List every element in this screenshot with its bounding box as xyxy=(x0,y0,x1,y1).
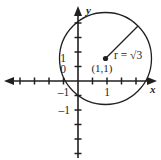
x-tick-label-one: 1 xyxy=(104,86,110,98)
y-axis-label: y xyxy=(84,4,91,16)
y-axis-up-arrow-icon xyxy=(74,6,82,16)
x-tick-label-negative-one: –1 xyxy=(57,86,70,98)
y-tick-label-one: 1 xyxy=(60,52,66,64)
origin-tick-label: 0 xyxy=(60,63,66,75)
center-point-dot xyxy=(103,56,108,61)
x-axis-left-arrow-icon xyxy=(4,77,14,85)
math-figure-circle: y x 0 1 –1 –1 1 (1,1) r = √3 xyxy=(0,0,161,160)
radius-label: r = √3 xyxy=(114,49,142,61)
y-tick-label-negative-one: –1 xyxy=(58,104,71,116)
x-axis-label: x xyxy=(149,83,156,95)
center-point-label: (1,1) xyxy=(91,62,112,75)
